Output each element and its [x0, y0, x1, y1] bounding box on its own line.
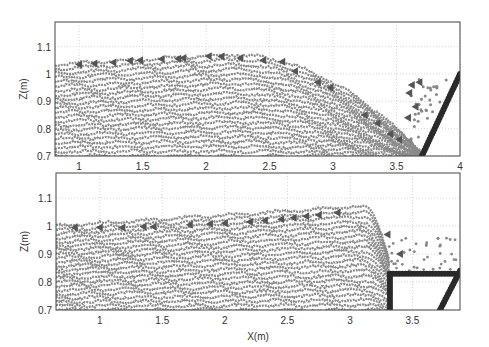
- splash-particle: [439, 244, 442, 247]
- splash-particle: [423, 258, 426, 261]
- splash-particle: [453, 258, 456, 261]
- splash-particle: [435, 86, 438, 89]
- particle-field: [55, 52, 463, 159]
- splash-particle: [394, 262, 397, 265]
- splash-particle: [425, 109, 428, 112]
- splash-particle: [444, 260, 447, 263]
- splash-particle: [450, 253, 453, 256]
- surface-marker: [408, 81, 415, 89]
- surface-marker: [383, 231, 390, 239]
- particle-field: [56, 206, 463, 314]
- splash-particle: [417, 112, 420, 115]
- x-tick-label: 3.5: [406, 315, 420, 326]
- figure: 11.522.533.540.70.80.911.1Z(m)11.522.533…: [0, 0, 489, 347]
- splash-particle: [419, 108, 422, 111]
- y-tick-label: 1.1: [38, 193, 52, 204]
- splash-particle: [417, 120, 420, 123]
- splash-particle: [428, 99, 431, 102]
- surface-marker: [109, 58, 116, 66]
- splash-particle: [438, 100, 441, 103]
- splash-particle: [432, 85, 435, 88]
- panel-1: 11.522.533.540.70.80.911.1Z(m): [18, 22, 463, 172]
- splash-particle: [425, 243, 428, 246]
- surface-marker: [405, 89, 412, 97]
- splash-particle: [401, 263, 404, 266]
- x-axis-label: X(m): [247, 331, 269, 342]
- splash-particle: [454, 238, 457, 241]
- y-tick-label: 0.8: [37, 124, 51, 135]
- y-tick-label: 0.7: [38, 305, 52, 316]
- x-tick-label: 1.5: [136, 161, 150, 172]
- splash-particle: [426, 117, 429, 120]
- splash-particle: [445, 79, 448, 82]
- particle-layer: [56, 303, 389, 309]
- particle-layer: [56, 234, 389, 275]
- splash-particle: [413, 118, 416, 121]
- x-tick-label: 2.5: [280, 315, 294, 326]
- surface-marker: [158, 55, 165, 63]
- splash-particle: [414, 113, 417, 116]
- splash-particle: [422, 268, 425, 271]
- splash-particle: [449, 268, 452, 271]
- y-axis-label: Z(m): [19, 231, 30, 252]
- splash-particle: [390, 260, 393, 263]
- x-tick-label: 1: [76, 161, 82, 172]
- x-tick-label: 3: [347, 315, 353, 326]
- splash-particle: [396, 260, 399, 263]
- splash-particle: [445, 237, 448, 240]
- x-tick-label: 3: [330, 161, 336, 172]
- splash-particle: [426, 86, 429, 89]
- splash-particle: [408, 248, 411, 251]
- splash-particle: [435, 93, 438, 96]
- x-tick-label: 4: [457, 161, 463, 172]
- splash-particle: [432, 268, 435, 271]
- splash-particle: [429, 89, 432, 92]
- x-tick-label: 1.5: [155, 315, 169, 326]
- splash-particle: [449, 238, 452, 241]
- surface-marker: [333, 209, 340, 217]
- splash-particle: [431, 110, 434, 113]
- y-tick-label: 1.1: [37, 42, 51, 53]
- y-tick-label: 1: [46, 221, 52, 232]
- splash-particle: [400, 239, 403, 242]
- splash-particle: [413, 250, 416, 253]
- y-tick-label: 0.8: [38, 277, 52, 288]
- splash-particle: [403, 251, 406, 254]
- y-tick-label: 1: [45, 69, 51, 80]
- splash-particle: [415, 242, 418, 245]
- panel-2: 11.522.533.50.70.80.911.1Z(m)X(m): [19, 173, 463, 342]
- y-tick-label: 0.9: [38, 249, 52, 260]
- splash-particle: [410, 141, 413, 144]
- surface-marker: [259, 56, 266, 64]
- splash-particle: [424, 94, 427, 97]
- y-tick-label: 0.7: [37, 151, 51, 162]
- surface-marker: [396, 250, 403, 258]
- splash-particle: [392, 242, 395, 245]
- y-axis-label: Z(m): [18, 78, 29, 99]
- splash-particle: [440, 263, 443, 266]
- splash-particle: [426, 256, 429, 259]
- x-tick-label: 2.5: [263, 161, 277, 172]
- splash-particle: [413, 266, 416, 269]
- splash-particle: [395, 267, 398, 270]
- x-tick-label: 2: [203, 161, 209, 172]
- splash-particle: [439, 252, 442, 255]
- splash-particle: [404, 237, 407, 240]
- splash-particle: [417, 135, 420, 138]
- splash-particle: [390, 252, 393, 255]
- splash-particle: [416, 266, 419, 269]
- x-tick-label: 1: [97, 315, 103, 326]
- surface-marker: [126, 57, 133, 65]
- surface-marker: [278, 58, 285, 66]
- splash-particle: [438, 267, 441, 270]
- x-tick-label: 3.5: [390, 161, 404, 172]
- splash-particle: [388, 245, 391, 248]
- splash-particle: [437, 237, 440, 240]
- splash-particle: [413, 125, 416, 128]
- splash-particle: [420, 98, 423, 101]
- x-tick-label: 2: [222, 315, 228, 326]
- y-tick-label: 0.9: [37, 96, 51, 107]
- splash-particle: [410, 137, 413, 140]
- surface-marker: [404, 114, 411, 122]
- splash-particle: [429, 103, 432, 106]
